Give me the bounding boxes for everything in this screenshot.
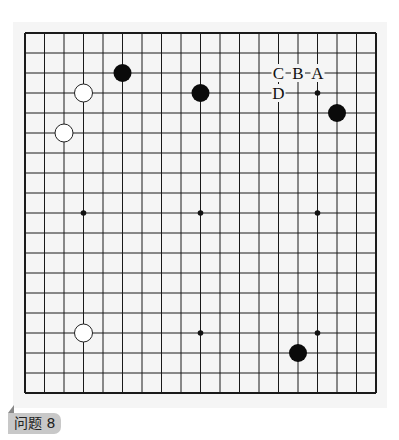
white-stone [55, 124, 73, 142]
tag-corner-icon [8, 405, 14, 413]
move-label-c[interactable]: C [273, 64, 284, 83]
problem-label: 问题 8 [8, 413, 61, 434]
black-stone [114, 64, 132, 82]
star-point-icon [81, 210, 87, 216]
black-stone [328, 104, 346, 122]
star-point-icon [315, 210, 321, 216]
go-board[interactable]: CBAD [0, 0, 399, 440]
star-point-icon [198, 210, 204, 216]
white-stone [75, 84, 93, 102]
black-stone [192, 84, 210, 102]
star-point-icon [198, 330, 204, 336]
move-label-d[interactable]: D [272, 84, 284, 103]
white-stone [75, 324, 93, 342]
star-point-icon [315, 90, 321, 96]
move-label-a[interactable]: A [311, 64, 324, 83]
move-label-b[interactable]: B [292, 64, 303, 83]
star-point-icon [315, 330, 321, 336]
black-stone [289, 344, 307, 362]
